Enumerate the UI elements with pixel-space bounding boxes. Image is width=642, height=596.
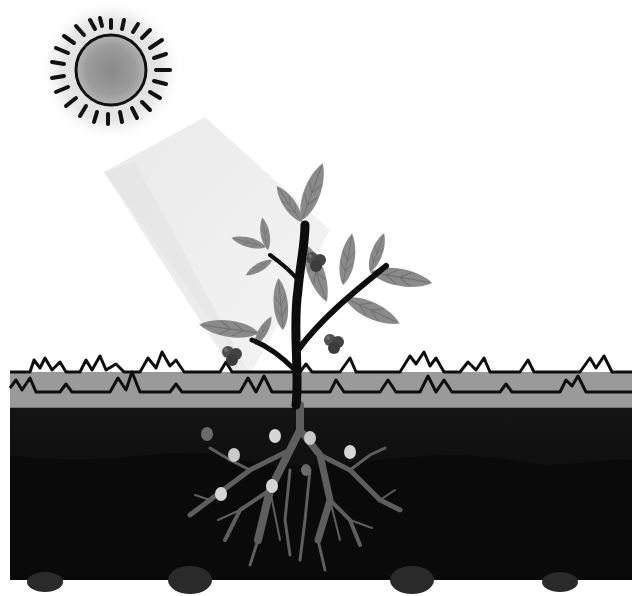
grass-strip	[10, 352, 632, 408]
soil-layer	[10, 408, 632, 594]
sun-icon	[39, 0, 183, 142]
illustration-canvas	[0, 0, 642, 596]
photosynthesis-scene	[0, 0, 642, 596]
